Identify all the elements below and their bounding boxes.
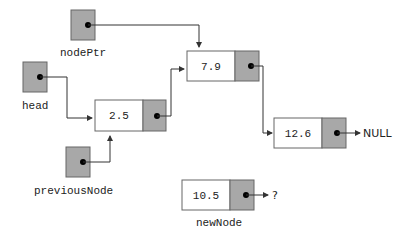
linked-list-diagram: nodePtr head 2.5 previousNode 7.9 12.6 (0, 0, 413, 242)
unknown-next-label: ? (272, 189, 278, 202)
nodePtr-pointer: nodePtr (60, 10, 199, 59)
previousNode-pointer: previousNode (34, 136, 113, 197)
node-7-9: 7.9 (187, 51, 272, 133)
nodePtr-label: nodePtr (60, 47, 106, 59)
node-value: 10.5 (193, 190, 219, 202)
head-pointer: head (22, 62, 92, 118)
node-2-5: 2.5 (95, 69, 184, 131)
node-value: 2.5 (109, 110, 129, 122)
new-node: 10.5 ? newNode (182, 180, 278, 229)
node-12-6: 12.6 NULL (274, 118, 392, 148)
null-label: NULL (363, 127, 392, 140)
newNode-label: newNode (196, 217, 242, 229)
node-value: 7.9 (201, 61, 221, 73)
previousNode-label: previousNode (34, 185, 113, 197)
head-label: head (22, 100, 48, 112)
node-value: 12.6 (285, 128, 311, 140)
